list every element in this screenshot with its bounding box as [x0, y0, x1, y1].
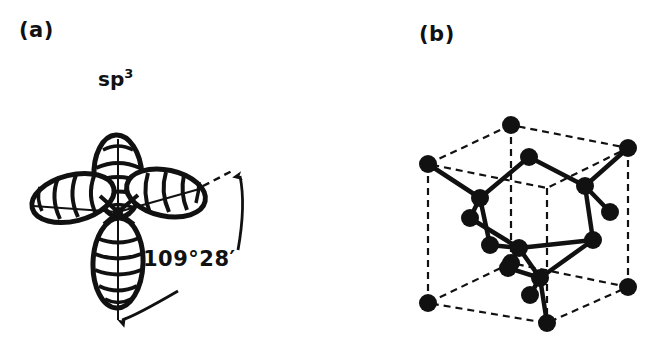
atom-corner — [619, 139, 637, 157]
atom-corner — [619, 278, 637, 296]
atom-interior — [510, 239, 528, 257]
atom-interior — [531, 269, 549, 287]
atom-corner — [419, 294, 437, 312]
atom-interior — [601, 203, 619, 221]
atom-corner — [538, 314, 556, 332]
atom-interior — [471, 189, 489, 207]
atom-interior — [576, 177, 594, 195]
diamond-cubic-lattice-diagram — [0, 0, 666, 357]
atom-interior — [521, 286, 539, 304]
lattice-atoms — [419, 116, 637, 332]
atom-corner — [419, 155, 437, 173]
scientific-figure: (a) sp3 — [0, 0, 666, 357]
atom-interior — [461, 209, 479, 227]
atom-interior — [584, 231, 602, 249]
atom-interior — [520, 148, 538, 166]
atom-corner — [502, 116, 520, 134]
atom-interior — [481, 236, 499, 254]
atom-interior — [499, 259, 517, 277]
